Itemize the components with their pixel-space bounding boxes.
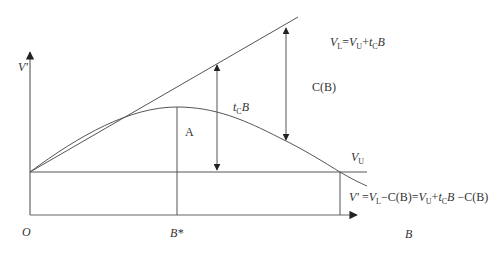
v-prime-curve xyxy=(30,107,367,186)
area-label: A xyxy=(185,126,194,138)
x-axis-label: B xyxy=(405,228,412,240)
diagram-canvas xyxy=(0,0,500,254)
vl-equation-label: VL=VU+tCB xyxy=(330,36,385,51)
vu-label: VU xyxy=(351,151,364,166)
b-star-label: B* xyxy=(170,227,183,239)
tcb-label: tCB xyxy=(233,101,249,116)
v-prime-equation-label: V' =VL−C(B)=VU+tCB −C(B) xyxy=(349,191,488,206)
origin-label: O xyxy=(22,226,31,238)
cost-label: C(B) xyxy=(312,81,336,93)
vl-line xyxy=(30,17,298,172)
y-axis-label: V' xyxy=(18,61,28,73)
